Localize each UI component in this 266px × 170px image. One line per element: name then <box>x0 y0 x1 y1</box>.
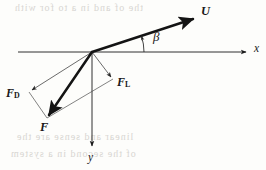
bold-vector-group <box>49 19 193 115</box>
figure-canvas: the of and in a to for with linear and s… <box>0 0 266 170</box>
beta-angle-arc <box>142 36 145 52</box>
label-angle-beta: β <box>153 30 159 43</box>
label-vector-F-drag: FD <box>6 87 20 100</box>
vector-U <box>92 19 193 52</box>
label-x-axis: x <box>254 43 259 55</box>
axis-group <box>18 52 246 146</box>
label-FL-subscript: L <box>125 80 130 89</box>
label-FD-base: F <box>6 86 14 100</box>
label-vector-F: F <box>40 121 48 134</box>
label-FL-base: F <box>117 75 125 89</box>
vector-F-lift <box>92 52 111 77</box>
label-vector-U: U <box>201 5 210 18</box>
beta-angle-arc-group <box>142 36 145 52</box>
vector-F-drag <box>32 52 92 90</box>
component-vector-group <box>32 52 111 90</box>
label-vector-F-lift: FL <box>117 76 130 89</box>
vector-diagram-svg <box>0 0 266 170</box>
parallelogram-side-drag <box>29 92 47 118</box>
vector-F-resultant <box>49 52 92 115</box>
parallelogram-side-lift <box>47 79 113 118</box>
label-y-axis: y <box>88 152 93 164</box>
label-FD-subscript: D <box>14 91 20 100</box>
